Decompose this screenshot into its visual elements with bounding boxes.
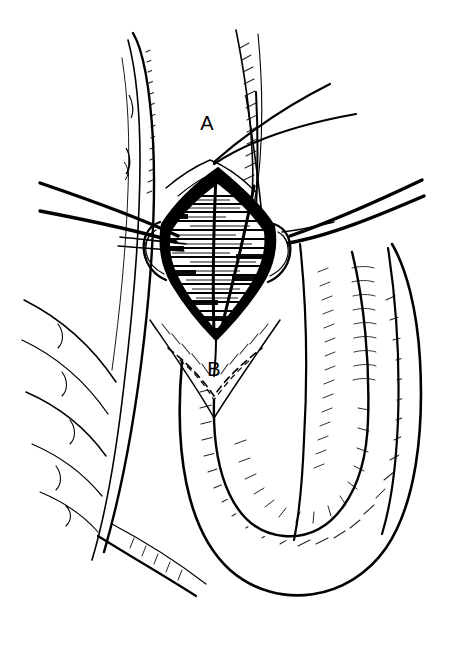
surgical-illustration: A B (0, 0, 458, 645)
illustration-canvas: A B (0, 0, 458, 645)
label-a: A (200, 112, 214, 134)
label-b: B (207, 358, 220, 380)
